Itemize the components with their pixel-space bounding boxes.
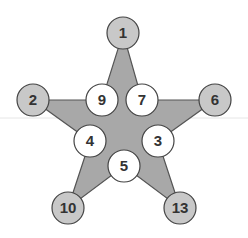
outer-node-left: 2 [17,84,49,116]
node-label: 10 [60,199,77,216]
outer-node-top: 1 [107,17,139,49]
node-label: 5 [120,157,128,174]
node-label: 13 [172,199,189,216]
magic-star-diagram: 126101397435 [0,0,248,238]
node-label: 3 [154,132,162,149]
outer-node-bottom-left: 10 [52,192,84,224]
outer-node-right: 6 [199,84,231,116]
outer-node-bottom-right: 13 [164,192,196,224]
node-label: 4 [86,132,95,149]
inner-node-mid-right: 3 [142,125,174,157]
node-label: 7 [138,91,146,108]
inner-node-upper-left: 9 [86,84,118,116]
inner-node-bottom: 5 [108,150,140,182]
inner-node-mid-left: 4 [74,125,106,157]
node-label: 6 [211,91,219,108]
node-label: 1 [119,24,127,41]
node-label: 9 [98,91,106,108]
inner-node-upper-right: 7 [126,84,158,116]
node-label: 2 [29,91,37,108]
